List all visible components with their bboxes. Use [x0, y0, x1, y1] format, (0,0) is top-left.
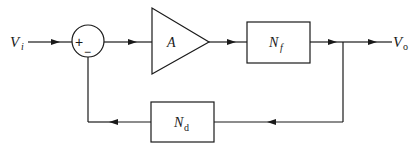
feedback-block: N d — [151, 102, 214, 142]
feedback-path — [88, 42, 343, 122]
svg-text:i: i — [21, 41, 24, 52]
svg-text:o: o — [403, 41, 408, 52]
svg-text:d: d — [184, 122, 189, 133]
input-label: V i — [10, 34, 24, 52]
amplifier-block: A — [152, 8, 209, 74]
summing-junction: + − — [72, 25, 104, 59]
amplifier-label: A — [166, 35, 176, 50]
forward-block: N f — [247, 22, 310, 63]
svg-text:N: N — [173, 115, 184, 130]
plus-sign: + — [75, 34, 83, 50]
svg-text:f: f — [280, 42, 284, 53]
output-label: V o — [393, 34, 408, 52]
feedback-block-diagram: V i + − A N f V o — [0, 0, 417, 150]
minus-sign: − — [84, 45, 91, 59]
svg-text:N: N — [268, 35, 279, 50]
svg-text:V: V — [10, 34, 21, 50]
